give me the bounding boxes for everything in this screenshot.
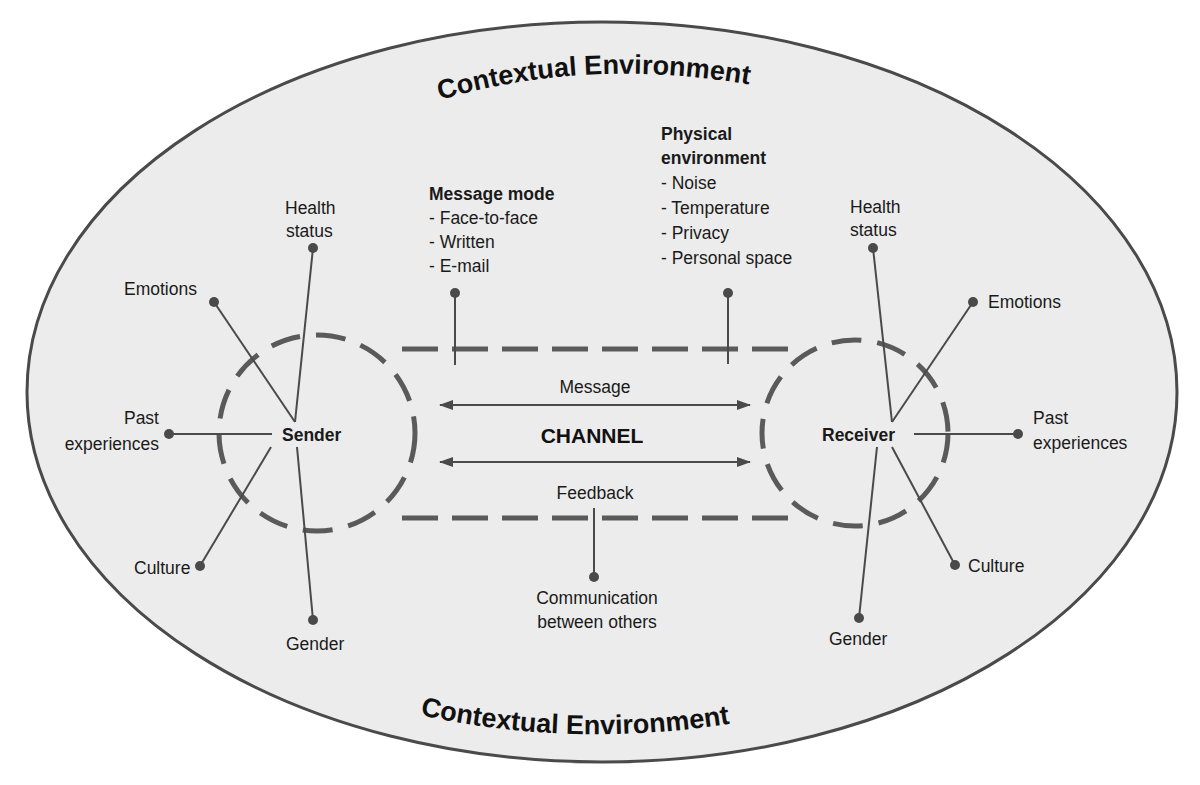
receiver-label: Receiver bbox=[822, 425, 895, 445]
physical-environment-item: - Temperature bbox=[661, 198, 770, 218]
receiver-past-label-2: experiences bbox=[1033, 433, 1128, 453]
physical-environment-item: - Noise bbox=[661, 173, 716, 193]
receiver-past-label: Past bbox=[1033, 408, 1068, 428]
receiver-gender-label: Gender bbox=[829, 629, 888, 649]
receiver-culture-label: Culture bbox=[968, 556, 1024, 576]
physical-environment-item: - Privacy bbox=[661, 223, 729, 243]
receiver-health-label: Health bbox=[850, 197, 901, 217]
communication-between-others-label-2: between others bbox=[537, 612, 657, 632]
sender-emotions-label: Emotions bbox=[124, 279, 197, 299]
message-mode-item: - Face-to-face bbox=[429, 208, 538, 228]
sender-health-label-2: status bbox=[286, 221, 333, 241]
message-label: Message bbox=[559, 377, 630, 397]
sender-health-label: Health bbox=[285, 198, 336, 218]
physical-environment-heading: Physical bbox=[661, 124, 732, 144]
feedback-label: Feedback bbox=[557, 483, 634, 503]
physical-environment-item: - Personal space bbox=[661, 248, 792, 268]
message-mode-heading: Message mode bbox=[429, 184, 555, 204]
sender-past-label-2: experiences bbox=[65, 434, 160, 454]
communication-between-others-label: Communication bbox=[536, 588, 658, 608]
physical-environment-heading-2: environment bbox=[661, 148, 766, 168]
receiver-emotions-label: Emotions bbox=[988, 292, 1061, 312]
communication-model-diagram: Contextual Environment Contextual Enviro… bbox=[0, 0, 1200, 785]
receiver-health-label-2: status bbox=[850, 220, 897, 240]
sender-past-label: Past bbox=[124, 408, 159, 428]
sender-culture-label: Culture bbox=[134, 558, 190, 578]
channel-label: CHANNEL bbox=[541, 424, 644, 447]
message-mode-item: - E-mail bbox=[429, 256, 489, 276]
message-mode-item: - Written bbox=[429, 232, 495, 252]
sender-gender-label: Gender bbox=[286, 634, 345, 654]
sender-label: Sender bbox=[282, 425, 342, 445]
